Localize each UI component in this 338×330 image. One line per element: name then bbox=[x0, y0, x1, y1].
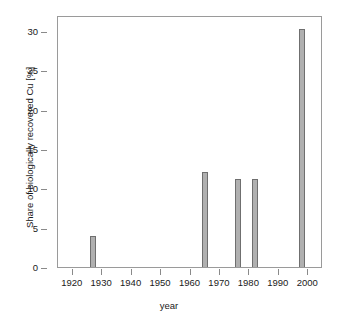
y-axis-tick-label: 5 bbox=[33, 224, 38, 234]
y-axis-tick bbox=[41, 150, 47, 151]
x-axis-tick bbox=[101, 269, 102, 275]
x-axis-tick bbox=[160, 269, 161, 275]
x-axis-title: year bbox=[0, 300, 338, 311]
x-axis-tick-label: 1950 bbox=[149, 278, 170, 288]
y-axis-tick-label: 15 bbox=[27, 145, 38, 155]
y-axis-tick bbox=[41, 111, 47, 112]
plot-area bbox=[58, 17, 321, 267]
x-axis-tick-label: 1920 bbox=[61, 278, 82, 288]
y-axis-tick bbox=[41, 71, 47, 72]
y-axis-tick-label: 30 bbox=[27, 27, 38, 37]
x-axis-tick bbox=[190, 269, 191, 275]
y-axis-tick-label: 25 bbox=[27, 66, 38, 76]
y-axis-tick bbox=[41, 229, 47, 230]
y-axis-tick bbox=[41, 189, 47, 190]
x-axis-tick bbox=[307, 269, 308, 275]
x-axis-tick bbox=[72, 269, 73, 275]
x-axis-tick bbox=[248, 269, 249, 275]
x-axis-tick-label: 1990 bbox=[267, 278, 288, 288]
bar bbox=[90, 236, 96, 268]
y-axis-tick-label: 10 bbox=[27, 184, 38, 194]
x-axis-tick bbox=[219, 269, 220, 275]
x-axis-tick-label: 1980 bbox=[238, 278, 259, 288]
x-axis-tick-label: 1960 bbox=[179, 278, 200, 288]
x-axis-tick-label: 1930 bbox=[91, 278, 112, 288]
bar bbox=[202, 172, 208, 267]
x-axis-tick-label: 2000 bbox=[297, 278, 318, 288]
x-axis: year 19201930194019501960197019801990200… bbox=[0, 268, 338, 330]
y-axis-tick bbox=[41, 32, 47, 33]
x-axis-tick bbox=[131, 269, 132, 275]
x-axis-tick-label: 1940 bbox=[120, 278, 141, 288]
x-axis-tick-label: 1970 bbox=[208, 278, 229, 288]
bar bbox=[252, 179, 258, 267]
bar bbox=[235, 179, 241, 267]
chart-figure: Share of biologically recovered Cu [%] 0… bbox=[0, 0, 338, 330]
y-axis-tick-label: 20 bbox=[27, 106, 38, 116]
bar bbox=[299, 29, 305, 267]
plot-panel bbox=[57, 16, 322, 268]
x-axis-tick bbox=[278, 269, 279, 275]
